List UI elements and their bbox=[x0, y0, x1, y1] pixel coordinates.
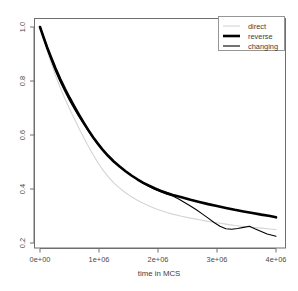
y-tick-label: 1.0 bbox=[18, 22, 27, 32]
x-tick-label: 1e+06 bbox=[89, 255, 110, 264]
y-tick-label: 0.6 bbox=[18, 130, 27, 140]
y-tick-label: 0.8 bbox=[18, 76, 27, 86]
legend-label-changing: changing bbox=[248, 42, 278, 51]
x-tick-label: 3e+06 bbox=[207, 255, 228, 264]
line-chart-canvas: 0e+001e+062e+063e+064e+06 0.20.40.60.81.… bbox=[0, 0, 298, 291]
x-axis-title: time in MCS bbox=[138, 269, 180, 278]
y-tick-label: 0.4 bbox=[18, 184, 27, 194]
x-tick-label: 2e+06 bbox=[148, 255, 169, 264]
x-tick-label: 0e+00 bbox=[30, 255, 51, 264]
legend-label-reverse: reverse bbox=[248, 32, 273, 41]
chart-figure: 0e+001e+062e+063e+064e+06 0.20.40.60.81.… bbox=[0, 0, 298, 291]
y-tick-label: 0.2 bbox=[18, 238, 27, 248]
x-tick-label: 4e+06 bbox=[266, 255, 287, 264]
legend: directreversechanging bbox=[219, 17, 285, 51]
legend-label-direct: direct bbox=[248, 22, 266, 31]
